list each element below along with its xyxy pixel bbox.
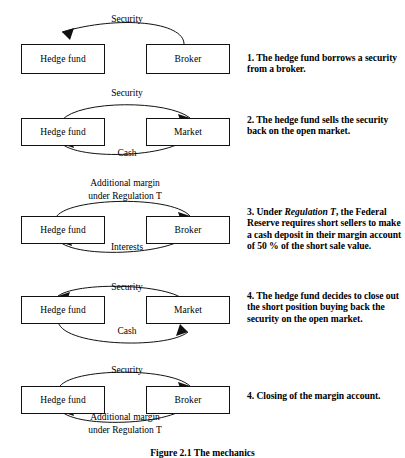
panel-1-left-node-label: Hedge fund — [40, 54, 86, 64]
panel-5-caption: 4. Closing of the margin account. — [247, 390, 405, 401]
panel-4-right-node-label: Market — [174, 305, 202, 315]
panel-2-diagram: Hedge fund Market Security Cash — [0, 88, 245, 176]
panel-3-top-edge-label: Additional margin — [70, 178, 180, 188]
panel-1: Hedge fund Broker Security 1. The hedge … — [0, 0, 405, 88]
panel-2: Hedge fund Market Security Cash 2. The h… — [0, 88, 405, 176]
panel-2-top-edge-label: Security — [82, 88, 172, 98]
panel-4-bottom-edge-label: Cash — [82, 326, 172, 336]
panel-3-diagram: Hedge fund Broker Additional margin unde… — [0, 176, 245, 274]
panel-5-bottom-edge-label: Additional margin — [70, 412, 180, 422]
panel-4-caption: 4. The hedge fund decides to close out t… — [247, 290, 405, 324]
panel-1-caption: 1. The hedge fund borrows a security fro… — [247, 52, 405, 75]
panel-2-left-node-label: Hedge fund — [40, 127, 86, 137]
panel-4-left-node-label: Hedge fund — [40, 305, 86, 315]
panel-1-top-edge-label: Security — [82, 14, 172, 24]
caption-run: 3. Under — [247, 206, 285, 217]
panel-4-right-node: Market — [146, 296, 230, 324]
panel-4-diagram: Hedge fund Market Security Cash — [0, 274, 245, 362]
panel-4-left-node: Hedge fund — [21, 296, 105, 324]
panel-5-bottom-edge-label-line2: under Regulation T — [70, 425, 180, 435]
caption-run: 2. The hedge fund sells the security bac… — [247, 114, 388, 136]
panel-3-top-edge-label-line2: under Regulation T — [70, 191, 180, 201]
panel-5-left-node-label: Hedge fund — [40, 395, 86, 405]
panel-5-right-node: Broker — [146, 386, 230, 414]
panel-3-caption: 3. Under Regulation T, the Federal Reser… — [247, 206, 405, 252]
caption-run: 4. The hedge fund decides to close out t… — [247, 290, 399, 324]
panel-1-right-node-label: Broker — [175, 54, 202, 64]
panel-2-right-node-label: Market — [174, 127, 202, 137]
panel-5-diagram: Hedge fund Broker Security Additional ma… — [0, 362, 245, 455]
panel-3-left-node-label: Hedge fund — [40, 225, 86, 235]
caption-emphasis: Regulation T — [285, 206, 336, 217]
panel-3-right-node: Broker — [146, 216, 230, 244]
panel-2-caption: 2. The hedge fund sells the security bac… — [247, 114, 405, 137]
panel-1-right-node: Broker — [146, 44, 230, 74]
caption-run: 1. The hedge fund borrows a security fro… — [247, 52, 397, 74]
panel-2-left-node: Hedge fund — [21, 118, 105, 146]
panel-3-right-node-label: Broker — [175, 225, 202, 235]
caption-run: 4. Closing of the margin account. — [247, 390, 380, 401]
panel-5-top-edge-label: Security — [82, 365, 172, 375]
panel-3-bottom-edge-label: Interests — [82, 242, 172, 252]
panel-5-left-node: Hedge fund — [21, 386, 105, 414]
panel-5: Hedge fund Broker Security Additional ma… — [0, 362, 405, 455]
panel-2-bottom-edge-label: Cash — [82, 148, 172, 158]
panel-5-right-node-label: Broker — [175, 395, 202, 405]
panel-4-top-edge-label: Security — [82, 282, 172, 292]
panel-1-left-node: Hedge fund — [21, 44, 105, 74]
panel-1-diagram: Hedge fund Broker Security — [0, 0, 245, 88]
figure-caption: Figure 2.1 The mechanics — [0, 447, 405, 458]
panel-2-right-node: Market — [146, 118, 230, 146]
panel-3: Hedge fund Broker Additional margin unde… — [0, 176, 405, 274]
panel-3-left-node: Hedge fund — [21, 216, 105, 244]
panel-4: Hedge fund Market Security Cash 4. The h… — [0, 274, 405, 362]
